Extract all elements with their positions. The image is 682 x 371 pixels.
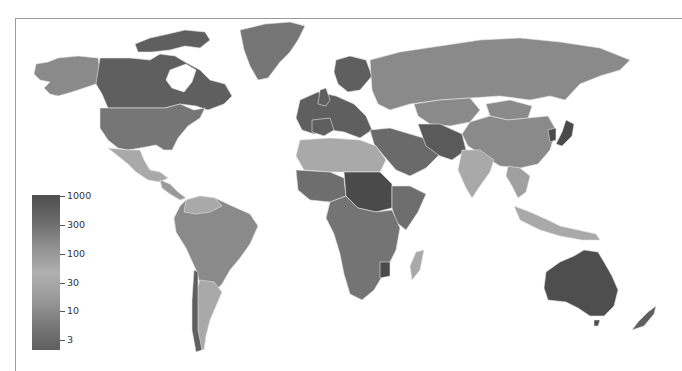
legend-tick bbox=[60, 254, 65, 255]
region-australia[interactable] bbox=[544, 250, 618, 316]
region-north-africa[interactable] bbox=[296, 138, 386, 172]
legend-label-300: 300 bbox=[67, 220, 85, 230]
region-southeast-asia[interactable] bbox=[506, 166, 530, 198]
legend-label-1000: 1000 bbox=[67, 191, 91, 201]
region-indonesia[interactable] bbox=[514, 206, 600, 240]
region-tasmania[interactable] bbox=[594, 320, 600, 326]
legend-tick bbox=[60, 225, 65, 226]
region-canada[interactable] bbox=[96, 54, 232, 110]
region-japan[interactable] bbox=[556, 120, 574, 146]
legend-label-10: 10 bbox=[67, 306, 79, 316]
region-russia[interactable] bbox=[370, 38, 630, 110]
region-scandinavia[interactable] bbox=[334, 56, 372, 92]
region-india[interactable] bbox=[458, 150, 494, 198]
region-usa[interactable] bbox=[100, 104, 205, 150]
region-spain[interactable] bbox=[312, 118, 334, 136]
world-map bbox=[0, 0, 682, 371]
region-madagascar[interactable] bbox=[410, 250, 424, 280]
color-scale-legend: 1000 300 100 30 10 3 bbox=[32, 195, 60, 350]
legend-label-30: 30 bbox=[67, 278, 79, 288]
region-europe[interactable] bbox=[296, 92, 372, 138]
region-alaska[interactable] bbox=[34, 56, 102, 96]
legend-label-3: 3 bbox=[67, 335, 73, 345]
region-new-zealand[interactable] bbox=[632, 306, 656, 330]
legend-tick bbox=[60, 311, 65, 312]
region-canada-arctic[interactable] bbox=[135, 30, 210, 52]
legend-tick bbox=[60, 340, 65, 341]
legend-tick bbox=[60, 283, 65, 284]
region-greenland[interactable] bbox=[240, 22, 305, 80]
legend-gradient-bar bbox=[32, 195, 60, 350]
region-mexico[interactable] bbox=[108, 148, 168, 182]
region-west-africa[interactable] bbox=[296, 170, 346, 202]
legend-label-100: 100 bbox=[67, 249, 85, 259]
region-central-america[interactable] bbox=[160, 180, 186, 200]
region-zimbabwe[interactable] bbox=[380, 262, 390, 278]
region-central-southern-africa[interactable] bbox=[326, 196, 400, 300]
legend-tick bbox=[60, 196, 65, 197]
